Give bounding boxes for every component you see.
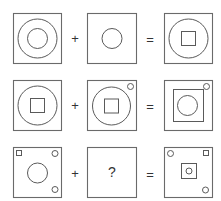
- row-1-cell-middle: [88, 14, 137, 64]
- row-2-cell-right: [165, 81, 213, 131]
- equals-operator-row-1: =: [146, 33, 154, 46]
- cell-frame: [165, 14, 213, 64]
- row-2-cell-middle: [88, 81, 137, 131]
- unknown-answer-mark: ?: [108, 165, 116, 179]
- row-3-cell-right: [165, 148, 213, 198]
- cell-frame: [88, 81, 137, 131]
- puzzle-diagram: + = + = + = ?: [0, 0, 221, 201]
- equals-operator-row-3: =: [146, 168, 154, 181]
- row-1: [14, 14, 213, 64]
- equals-operator-row-2: =: [146, 100, 154, 113]
- cell-frame: [165, 81, 213, 131]
- row-2-cell-left: [14, 81, 62, 131]
- cell-frame: [88, 14, 137, 64]
- row-2: [14, 81, 213, 131]
- row-1-cell-left: [14, 14, 62, 64]
- cell-frame: [14, 14, 62, 64]
- plus-operator-row-1: +: [71, 32, 79, 45]
- cell-frame: [14, 81, 62, 131]
- plus-operator-row-2: +: [71, 99, 79, 112]
- row-3-cell-left: [14, 148, 62, 198]
- row-1-cell-right: [165, 14, 213, 64]
- plus-operator-row-3: +: [71, 167, 79, 180]
